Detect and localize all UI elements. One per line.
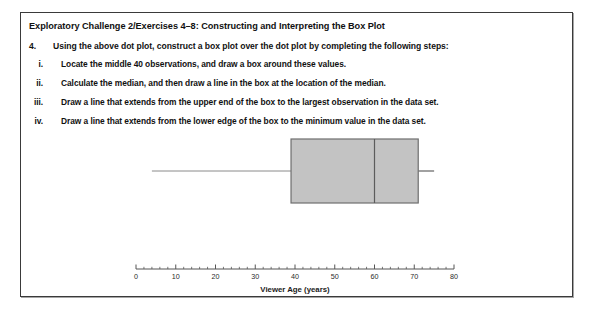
step-marker: i. [29, 59, 61, 69]
axis-tick-label: 30 [251, 272, 259, 281]
question-text: Using the above dot plot, construct a bo… [53, 41, 564, 51]
x-axis [136, 265, 454, 270]
axis-tick-label: 60 [371, 272, 379, 281]
axis-tick-label: 10 [172, 272, 180, 281]
question-row: 4. Using the above dot plot, construct a… [29, 41, 564, 51]
list-item: iii. Draw a line that extends from the u… [29, 97, 564, 116]
step-marker: ii. [29, 78, 61, 88]
axis-tick-label: 50 [331, 272, 339, 281]
axis-tick-label: 70 [410, 272, 418, 281]
page-title: Exploratory Challenge 2/Exercises 4–8: C… [29, 21, 385, 31]
step-list: i. Locate the middle 40 observations, an… [29, 59, 564, 135]
axis-tick-label: 40 [291, 272, 299, 281]
step-marker: iii. [29, 97, 61, 107]
axis-tick-label: 80 [450, 272, 458, 281]
axis-tick-label: 20 [212, 272, 220, 281]
scanned-page-frame: Exploratory Challenge 2/Exercises 4–8: C… [20, 12, 573, 297]
x-axis-title: Viewer Age (years) [260, 285, 330, 294]
step-text: Locate the middle 40 observations, and d… [61, 59, 564, 69]
box-group [291, 139, 418, 203]
list-item: ii. Calculate the median, and then draw … [29, 78, 564, 97]
axis-tick-label: 0 [134, 272, 138, 281]
x-axis-tick-labels: 01020304050607080 [134, 272, 458, 281]
box-plot-figure: 01020304050607080 Viewer Age (years) [21, 13, 574, 298]
step-text: Calculate the median, and then draw a li… [61, 78, 564, 88]
step-marker: iv. [29, 116, 61, 126]
list-item: iv. Draw a line that extends from the lo… [29, 116, 564, 135]
step-text: Draw a line that extends from the lower … [61, 116, 564, 126]
step-text: Draw a line that extends from the upper … [61, 97, 564, 107]
list-item: i. Locate the middle 40 observations, an… [29, 59, 564, 78]
question-number: 4. [29, 41, 53, 51]
box-rect [291, 139, 418, 203]
question-block: 4. Using the above dot plot, construct a… [29, 41, 564, 51]
box-plot-svg: 01020304050607080 Viewer Age (years) [21, 13, 574, 298]
